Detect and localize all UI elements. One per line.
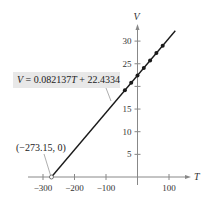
y-axis-label: V xyxy=(134,11,142,22)
intercept-leader-line xyxy=(44,154,50,175)
data-point xyxy=(154,51,158,55)
x-tick-label: −200 xyxy=(65,183,84,193)
data-point xyxy=(136,73,140,77)
x-axis-arrow-icon xyxy=(185,175,191,179)
intercept-point-marker xyxy=(49,175,53,179)
data-point xyxy=(129,81,133,85)
x-tick-label: −300 xyxy=(34,183,53,193)
y-tick-label: 10 xyxy=(123,127,133,137)
y-tick-label: 15 xyxy=(123,104,133,114)
x-tick-label: 100 xyxy=(162,183,176,193)
y-tick-label: 30 xyxy=(123,36,133,46)
y-tick-label: 5 xyxy=(127,149,132,159)
data-point xyxy=(148,58,152,62)
y-tick-label: 25 xyxy=(123,59,133,69)
data-point xyxy=(161,44,165,48)
x-tick-label: −100 xyxy=(97,183,116,193)
equation-leader-line xyxy=(106,88,111,101)
x-axis-label: T xyxy=(194,171,201,182)
y-axis-arrow-icon xyxy=(136,24,140,30)
data-point xyxy=(142,66,146,70)
data-point xyxy=(123,88,127,92)
chart: TV−300−200−100100510152530 xyxy=(0,0,210,206)
